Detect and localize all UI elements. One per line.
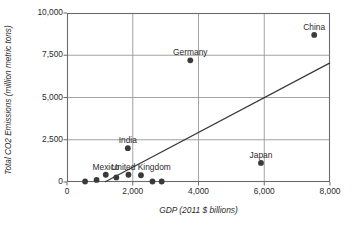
data-point[interactable] (113, 175, 119, 181)
data-point[interactable] (159, 179, 165, 185)
data-point[interactable] (258, 160, 264, 166)
x-tick-label: 6,000 (241, 186, 287, 196)
plot-canvas (67, 13, 330, 182)
trendline (105, 63, 330, 182)
data-point[interactable] (125, 145, 131, 151)
x-tick-label: 2,000 (110, 186, 156, 196)
data-point[interactable] (150, 179, 156, 185)
scatter-chart-figure: Total CO2 Emissions (million metric tons… (0, 0, 363, 226)
data-point[interactable] (82, 179, 88, 185)
data-point[interactable] (126, 172, 132, 178)
x-tick-label: 4,000 (176, 186, 222, 196)
data-point[interactable] (311, 32, 317, 38)
data-point[interactable] (94, 177, 100, 183)
data-point[interactable] (138, 172, 144, 178)
data-point[interactable] (103, 172, 109, 178)
plot-area: MexicoIndiaUnited KingdomGermanyJapanChi… (67, 13, 330, 182)
x-tick-label: 8,000 (307, 186, 353, 196)
x-axis-title: GDP (2011 $ billions) (67, 205, 330, 215)
x-tick-label: 0 (44, 186, 90, 196)
data-point[interactable] (187, 57, 193, 63)
